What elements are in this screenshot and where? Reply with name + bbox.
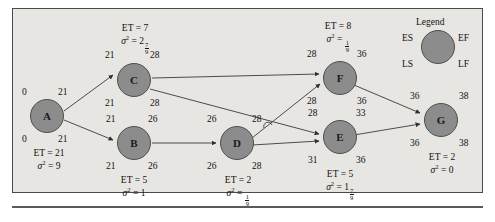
node-B-ls: 21 xyxy=(106,162,116,172)
node-G-et: ET = 2 xyxy=(410,152,474,163)
node-E-ls: 31 xyxy=(308,156,318,166)
node-D-stats: ET = 2 σ2 = 19 xyxy=(206,175,270,208)
node-G-es: 36 xyxy=(410,92,420,102)
node-D-ls: 26 xyxy=(207,162,217,172)
node-D-ef: 28 xyxy=(252,115,262,125)
node-D-label: D xyxy=(233,137,241,149)
node-F-ls: 28 xyxy=(307,97,317,107)
node-D-lf: 28 xyxy=(252,162,262,172)
node-G-stats: ET = 2 σ2 = 0 xyxy=(410,152,474,176)
node-F-stats: ET = 8 σ2 = 19 xyxy=(305,21,371,54)
node-A[interactable]: A xyxy=(30,99,64,133)
node-E-et: ET = 5 xyxy=(308,169,372,180)
node-D-es: 26 xyxy=(207,115,217,125)
node-G[interactable]: G xyxy=(424,103,458,137)
node-B[interactable]: B xyxy=(117,126,151,160)
node-C-stats: ET = 7 σ2 = 279 xyxy=(103,23,167,56)
node-B-label: B xyxy=(130,137,137,149)
node-A-stats: ET = 21 σ2 = 9 xyxy=(18,148,80,172)
node-G-variance: σ2 = 0 xyxy=(410,163,474,176)
edge-C-to-F xyxy=(152,74,319,78)
node-B-ef: 26 xyxy=(148,115,158,125)
node-C[interactable]: C xyxy=(117,63,151,97)
node-F-lf: 36 xyxy=(357,97,367,107)
node-E-stats: ET = 5 σ2 = 179 xyxy=(308,169,372,202)
node-F-variance: σ2 = 19 xyxy=(305,32,371,54)
node-A-es: 0 xyxy=(22,88,27,98)
node-C-label: C xyxy=(130,74,138,86)
node-D-variance: σ2 = 19 xyxy=(206,186,270,208)
legend-title: Legend xyxy=(416,17,445,27)
node-E-es: 28 xyxy=(308,109,318,119)
legend-es-label: ES xyxy=(402,33,413,43)
node-G-ef: 38 xyxy=(459,92,469,102)
node-D[interactable]: D xyxy=(220,126,254,160)
node-B-variance: σ2 = 1 xyxy=(103,186,165,199)
legend-node-shape xyxy=(421,30,455,64)
node-A-variance: σ2 = 9 xyxy=(18,159,80,172)
node-A-lf: 21 xyxy=(58,135,68,145)
legend-ef-label: EF xyxy=(458,33,469,43)
node-G-ls: 36 xyxy=(410,139,420,149)
node-C-et: ET = 7 xyxy=(103,23,167,34)
node-F-et: ET = 8 xyxy=(305,21,371,32)
node-E-label: E xyxy=(336,131,343,143)
node-E-lf: 36 xyxy=(356,156,366,166)
node-B-stats: ET = 5 σ2 = 1 xyxy=(103,175,165,199)
edge-E-to-G xyxy=(354,124,420,135)
figure-page: A 0 21 0 21 ET = 21 σ2 = 9 B 21 26 21 26… xyxy=(0,0,495,222)
node-A-label: A xyxy=(43,110,51,122)
node-D-et: ET = 2 xyxy=(206,175,270,186)
node-F[interactable]: F xyxy=(323,61,357,95)
node-G-lf: 38 xyxy=(459,139,469,149)
node-B-et: ET = 5 xyxy=(103,175,165,186)
node-C-ls: 21 xyxy=(105,99,115,109)
edge-D-to-E xyxy=(252,141,319,145)
node-C-lf: 28 xyxy=(150,99,160,109)
legend-ls-label: LS xyxy=(402,59,413,69)
node-B-lf: 26 xyxy=(148,162,158,172)
node-E[interactable]: E xyxy=(323,120,357,154)
node-A-ef: 21 xyxy=(58,88,68,98)
node-A-ls: 0 xyxy=(22,135,27,145)
node-C-variance: σ2 = 279 xyxy=(103,34,167,56)
node-A-et: ET = 21 xyxy=(18,148,80,159)
legend-lf-label: LF xyxy=(458,59,469,69)
node-E-ef: 33 xyxy=(356,109,366,119)
node-F-label: F xyxy=(337,72,344,84)
node-B-es: 21 xyxy=(106,115,116,125)
node-E-variance: σ2 = 179 xyxy=(308,180,372,202)
node-G-label: G xyxy=(437,114,446,126)
